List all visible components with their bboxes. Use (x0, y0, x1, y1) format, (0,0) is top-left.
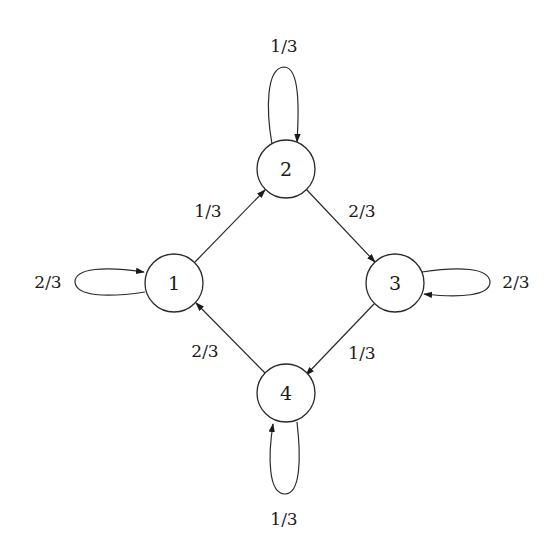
edge-4-to-1 (196, 303, 265, 373)
edge-label-2-to-2: 1/3 (270, 36, 297, 56)
edge-2-to-2 (268, 67, 298, 144)
node-3-label: 3 (389, 272, 401, 294)
node-2-label: 2 (280, 158, 292, 180)
markov-chain-diagram: 1 2 3 4 2/3 1/3 1/3 2/3 2/3 1/3 1/3 2/3 (0, 0, 556, 555)
node-4-label: 4 (280, 382, 292, 404)
edge-label-4-to-4: 1/3 (270, 509, 297, 529)
node-4: 4 (257, 364, 315, 422)
edge-label-3-to-4: 1/3 (348, 343, 375, 363)
edge-label-4-to-1: 2/3 (191, 341, 218, 361)
node-2: 2 (257, 140, 315, 198)
edge-3-to-4 (306, 304, 374, 375)
edge-label-2-to-3: 2/3 (348, 201, 375, 221)
edge-2-to-3 (306, 189, 375, 262)
edge-3-to-3 (422, 269, 490, 296)
edge-1-to-1 (75, 269, 145, 295)
node-1-label: 1 (168, 272, 180, 294)
edge-label-1-to-1: 2/3 (34, 272, 61, 292)
node-1: 1 (145, 254, 203, 312)
node-3: 3 (366, 254, 424, 312)
edge-label-3-to-3: 2/3 (502, 272, 529, 292)
edge-4-to-4 (270, 422, 299, 494)
edge-label-1-to-2: 1/3 (194, 201, 221, 221)
